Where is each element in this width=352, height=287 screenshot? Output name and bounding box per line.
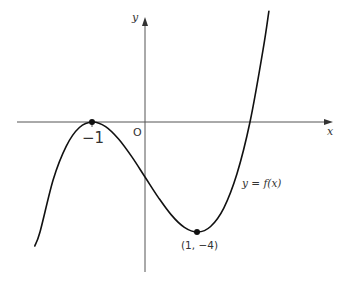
x-tick-label-minus-1: −1	[82, 131, 104, 146]
minimum-point-marker	[194, 229, 200, 235]
function-label: y = f(x)	[242, 178, 281, 189]
axes	[17, 17, 333, 272]
maximum-point-marker	[89, 119, 95, 125]
minimum-point-label: (1, −4)	[181, 240, 218, 251]
origin-label: O	[133, 127, 142, 138]
y-axis-label: y	[132, 12, 138, 23]
y-axis-arrow-icon	[142, 17, 148, 26]
function-graph	[0, 0, 352, 287]
x-axis-label: x	[327, 126, 333, 137]
curve-y-equals-f-x	[35, 11, 269, 246]
